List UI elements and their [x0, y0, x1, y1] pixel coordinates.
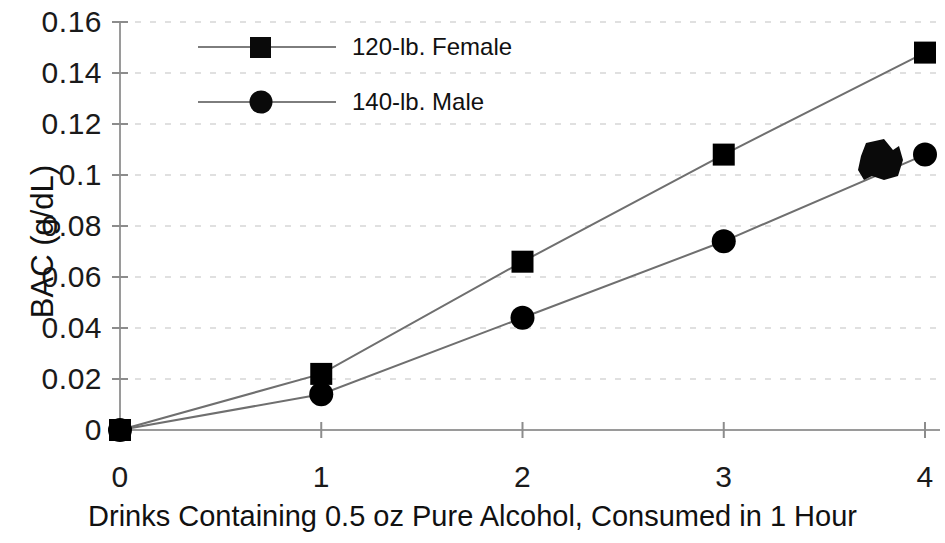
- data-point-square: [914, 42, 936, 64]
- data-point-square: [512, 251, 534, 273]
- series-line-circle: [120, 155, 925, 430]
- data-point-circle: [108, 418, 132, 442]
- axis-ticks: [112, 22, 925, 438]
- x-axis-tick-label: 4: [916, 462, 933, 492]
- x-axis-tick-label: 0: [111, 462, 128, 492]
- data-point-circle: [712, 229, 736, 253]
- x-axis-tick-label: 1: [313, 462, 330, 492]
- plot-area: [0, 0, 945, 543]
- data-point-circle: [913, 143, 937, 167]
- data-point-square: [310, 363, 332, 385]
- data-point-circle: [309, 382, 333, 406]
- y-axis-title: BAC (g/dL): [27, 112, 58, 372]
- legend-item-label-female: 120-lb. Female: [352, 35, 512, 59]
- series-line-square: [120, 53, 925, 430]
- legend-sample-lines: [198, 37, 336, 114]
- legend-item-label-male: 140-lb. Male: [352, 90, 484, 114]
- y-axis-tick-label: 0: [0, 415, 102, 445]
- data-point-square: [713, 144, 735, 166]
- data-point-circle: [511, 306, 535, 330]
- bac-line-chart: 00.020.040.060.080.10.120.140.16 01234 B…: [0, 0, 945, 543]
- x-axis-title: Drinks Containing 0.5 oz Pure Alcohol, C…: [0, 500, 945, 532]
- x-axis-tick-label: 2: [514, 462, 531, 492]
- scan-ink-blot-icon: [858, 139, 903, 180]
- y-axis-tick-label: 0.14: [0, 58, 102, 88]
- x-axis-tick-label: 3: [715, 462, 732, 492]
- y-axis-tick-label: 0.16: [0, 7, 102, 37]
